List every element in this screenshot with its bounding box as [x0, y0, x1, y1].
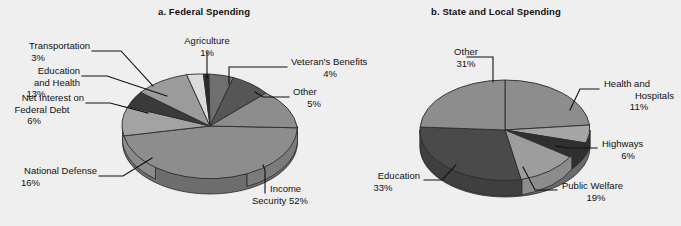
label-highways-pct: 6%: [602, 150, 676, 162]
label-national-defense: National Defense 16%: [0, 165, 97, 188]
label-veterans-benefits-name: Veteran's Benefits: [291, 56, 411, 68]
label-public-welfare-pct: 19%: [562, 192, 652, 204]
label-highways-name: Highways: [602, 138, 676, 150]
label-veterans-benefits-pct: 4%: [291, 68, 411, 80]
label-net-interest-name-1: Net Interest on: [0, 92, 84, 104]
label-veterans-benefits: Veteran's Benefits 4%: [291, 56, 411, 79]
label-health-and-hospitals-name-2: Hospitals: [604, 90, 680, 102]
label-income-security-name-1: Income: [270, 183, 360, 195]
label-other-state: Other 31%: [430, 46, 502, 69]
pie-b-slice-other-tail: [420, 80, 505, 130]
pie-b-slice-other: [505, 80, 590, 130]
label-agriculture-name: Agriculture: [168, 35, 246, 47]
label-income-security: Income Security 52%: [270, 183, 360, 206]
label-education-state: Education 33%: [352, 170, 420, 193]
label-other-state-name: Other: [430, 46, 502, 58]
label-net-interest-federal-debt: Net Interest on Federal Debt 6%: [0, 92, 84, 127]
label-education-and-health-name-1: Education: [0, 65, 80, 77]
label-other-federal: Other 5%: [293, 86, 353, 109]
pie-a-3d: [122, 74, 298, 194]
label-other-federal-pct: 5%: [293, 98, 353, 110]
label-transportation-name: Transportation: [0, 40, 90, 52]
label-education-state-pct: 33%: [352, 182, 420, 194]
label-health-and-hospitals: Health and Hospitals 11%: [604, 78, 680, 113]
label-transportation-pct: 3%: [0, 52, 90, 64]
label-health-and-hospitals-name-1: Health and: [604, 78, 680, 90]
label-net-interest-pct: 6%: [0, 115, 84, 127]
label-education-and-health-name-2: and Health: [0, 77, 80, 89]
label-highways: Highways 6%: [602, 138, 676, 161]
figure-canvas: a. Federal Spending: [0, 0, 681, 226]
label-public-welfare: Public Welfare 19%: [562, 180, 652, 203]
label-public-welfare-name: Public Welfare: [562, 180, 652, 192]
label-education-state-name: Education: [352, 170, 420, 182]
label-net-interest-name-2: Federal Debt: [0, 104, 84, 116]
label-health-and-hospitals-pct: 11%: [604, 101, 680, 113]
label-other-federal-name: Other: [293, 86, 353, 98]
label-national-defense-name: National Defense: [0, 165, 97, 177]
chart-b-title: b. State and Local Spending: [431, 6, 561, 17]
label-agriculture-pct: 1%: [168, 47, 246, 59]
label-transportation: Transportation 3%: [0, 40, 90, 63]
label-national-defense-pct: 16%: [0, 177, 97, 189]
label-agriculture: Agriculture 1%: [168, 35, 246, 58]
label-other-state-pct: 31%: [430, 58, 502, 70]
label-income-security-name-2: Security 52%: [252, 195, 360, 207]
